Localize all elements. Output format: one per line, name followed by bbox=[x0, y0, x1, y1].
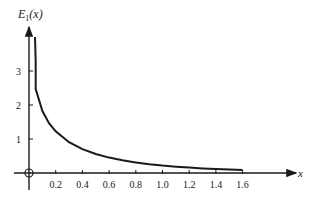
y-ticks: 123 bbox=[16, 66, 33, 145]
x-tick-label: 0.8 bbox=[130, 179, 143, 190]
x-tick-label: 1.4 bbox=[210, 179, 223, 190]
x-tick-label: 0.2 bbox=[49, 179, 62, 190]
x-axis-label: x bbox=[297, 167, 303, 179]
chart: 0.20.40.60.81.01.21.41.6 123 x E1(x) bbox=[0, 0, 313, 202]
y-axis-label: E1(x) bbox=[17, 7, 43, 23]
x-tick-label: 1.6 bbox=[236, 179, 249, 190]
x-tick-label: 1.2 bbox=[183, 179, 196, 190]
x-tick-label: 0.4 bbox=[76, 179, 89, 190]
y-tick-label: 3 bbox=[16, 66, 21, 77]
curve-e1 bbox=[35, 37, 243, 170]
y-tick-label: 2 bbox=[16, 100, 21, 111]
x-tick-label: 0.6 bbox=[103, 179, 116, 190]
y-tick-label: 1 bbox=[16, 134, 21, 145]
x-tick-label: 1.0 bbox=[156, 179, 169, 190]
